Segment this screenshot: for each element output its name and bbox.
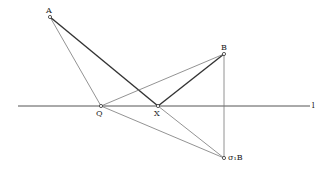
segment-A-X [50, 17, 158, 106]
label-A: A [46, 7, 52, 15]
point-X [156, 104, 159, 107]
diagram-canvas [0, 0, 325, 176]
point-sB [222, 156, 225, 159]
point-B [222, 52, 225, 55]
label-line-l: l [312, 102, 315, 110]
label-X: X [154, 110, 160, 118]
segment-Q-B [101, 54, 224, 106]
segment-A-Q [50, 17, 101, 106]
point-A [48, 15, 51, 18]
label-B: B [221, 44, 227, 52]
geometry-diagram: A B Q X σ₁B l [0, 0, 325, 176]
point-Q [99, 104, 102, 107]
segment-Q-sB [101, 106, 224, 158]
segment-X-B [158, 54, 224, 106]
segment-X-sB [158, 106, 224, 158]
label-sigma1-B: σ₁B [228, 154, 243, 162]
label-Q: Q [96, 110, 103, 118]
